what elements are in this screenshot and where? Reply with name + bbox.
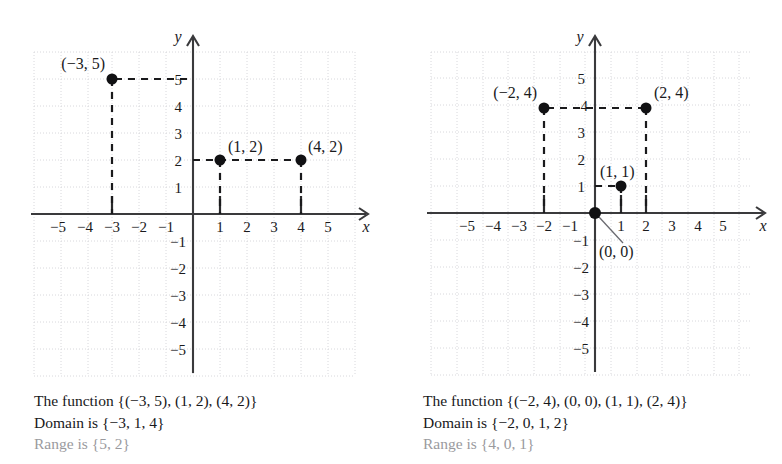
left-caption-domain: Domain is {−3, 1, 4} [34, 412, 394, 434]
right-caption: The function {(−2, 4), (0, 0), (1, 1), (… [423, 390, 782, 455]
left-ytick--5: −5 [170, 342, 186, 358]
right-ytick--4: −4 [573, 314, 589, 330]
right-x-tick-labels: −5 −4 −3 −2 −1 1 2 3 4 5 [459, 218, 727, 234]
left-xtick-4: 4 [297, 219, 305, 235]
left-caption: The function {(−3, 5), (1, 2), (4, 2)} D… [34, 390, 394, 455]
right-panel: x y −5 −4 −3 −2 −1 1 2 3 4 5 [391, 0, 782, 464]
right-ytick--2: −2 [573, 260, 589, 276]
left-data-points [107, 74, 307, 166]
left-xtick-2: 2 [243, 219, 251, 235]
point-label-0-0: (0, 0) [599, 243, 634, 261]
left-ytick-4: 4 [175, 99, 183, 115]
right-xtick-4: 4 [694, 218, 702, 234]
point-label-1-2: (1, 2) [228, 138, 263, 156]
right-ytick-5: 5 [578, 71, 586, 87]
point-label-neg3-5: (−3, 5) [61, 55, 105, 73]
left-xtick-1: 1 [216, 219, 224, 235]
left-xtick--1: −1 [158, 219, 174, 235]
right-axes [427, 36, 765, 372]
left-xtick--2: −2 [131, 219, 147, 235]
left-caption-function: The function {(−3, 5), (1, 2), (4, 2)} [34, 390, 394, 412]
left-coordinate-plane: x y −5 −4 −3 −2 −1 1 2 3 4 5 [0, 0, 391, 385]
point-label-4-2: (4, 2) [308, 138, 343, 156]
data-point [589, 207, 601, 219]
point-label-neg2-4: (−2, 4) [493, 84, 537, 102]
right-ytick-1: 1 [578, 179, 586, 195]
left-xtick--5: −5 [50, 219, 66, 235]
data-point [296, 155, 307, 166]
right-xtick-2: 2 [642, 218, 650, 234]
left-caption-range: Range is {5, 2} [34, 433, 394, 455]
left-panel: x y −5 −4 −3 −2 −1 1 2 3 4 5 [0, 0, 391, 464]
data-point [215, 155, 226, 166]
right-caption-domain: Domain is {−2, 0, 1, 2} [423, 412, 782, 434]
right-ytick--1: −1 [573, 233, 589, 249]
right-xtick--4: −4 [485, 218, 501, 234]
left-ytick-3: 3 [175, 126, 183, 142]
right-xtick--5: −5 [459, 218, 475, 234]
left-dashed-connectors [112, 79, 301, 214]
right-xtick-1: 1 [617, 218, 625, 234]
data-point [539, 103, 550, 114]
data-point [641, 103, 652, 114]
point-label-2-4: (2, 4) [654, 84, 689, 102]
right-ytick-2: 2 [578, 152, 586, 168]
left-ytick--2: −2 [170, 261, 186, 277]
right-xtick--3: −3 [511, 218, 527, 234]
right-xtick-5: 5 [719, 218, 727, 234]
left-ytick--1: −1 [170, 234, 186, 250]
left-xtick--3: −3 [104, 219, 120, 235]
left-xtick--4: −4 [77, 219, 93, 235]
data-point [616, 181, 627, 192]
left-ytick--3: −3 [170, 288, 186, 304]
left-x-tick-labels: −5 −4 −3 −2 −1 1 2 3 4 5 [50, 219, 332, 235]
right-xtick--2: −2 [536, 218, 552, 234]
right-xtick--1: −1 [562, 218, 578, 234]
right-ytick--3: −3 [573, 287, 589, 303]
right-y-axis-label: y [574, 28, 584, 46]
right-ytick-4: 4 [581, 98, 589, 114]
left-ytick--4: −4 [170, 315, 186, 331]
left-xtick-5: 5 [324, 219, 332, 235]
right-caption-range: Range is {4, 0, 1} [423, 433, 782, 455]
right-ytick--5: −5 [573, 341, 589, 357]
right-coordinate-plane: x y −5 −4 −3 −2 −1 1 2 3 4 5 [391, 0, 782, 385]
left-ytick-1: 1 [175, 180, 183, 196]
right-caption-function: The function {(−2, 4), (0, 0), (1, 1), (… [423, 390, 782, 412]
right-xtick-3: 3 [668, 218, 676, 234]
right-x-axis-label: x [758, 217, 766, 234]
data-point [107, 74, 118, 85]
right-ytick-3: 3 [578, 125, 586, 141]
figure-root: x y −5 −4 −3 −2 −1 1 2 3 4 5 [0, 0, 782, 464]
point-label-1-1: (1, 1) [600, 163, 635, 181]
left-xtick-3: 3 [270, 219, 278, 235]
left-x-axis-label: x [361, 218, 369, 235]
left-ytick-2: 2 [175, 153, 183, 169]
left-y-axis-label: y [172, 28, 182, 46]
left-x-ticks [112, 196, 301, 214]
